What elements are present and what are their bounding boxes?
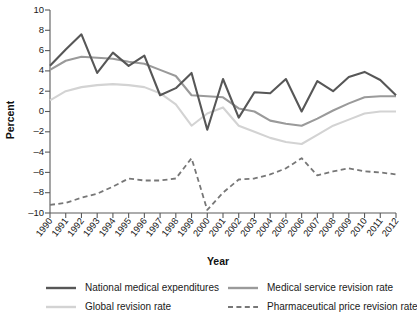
x-tick-label: 2003 (238, 216, 259, 238)
y-tick-label: –2 (33, 125, 44, 136)
y-axis-tick-labels: 1086420–2–4–6–8–10 (28, 4, 44, 218)
y-tick-label: –4 (33, 146, 44, 157)
x-tick-label: 2010 (349, 216, 370, 238)
series-line-pharmaceutical-price-revision-rate (50, 158, 396, 210)
y-tick-label: 0 (39, 105, 44, 116)
data-series-group (50, 34, 396, 210)
y-tick-label: 10 (33, 4, 44, 15)
y-tick-label: 8 (39, 24, 44, 35)
x-tick-label: 2002 (223, 216, 244, 238)
x-tick-label: 1997 (144, 216, 165, 238)
y-tick-label: 2 (39, 85, 44, 96)
x-tick-label: 2004 (254, 216, 275, 238)
y-axis-tick-marks (45, 10, 50, 213)
x-tick-label: 1994 (97, 216, 118, 238)
series-line-national-medical-expenditures (50, 34, 396, 129)
x-axis-title: Year (207, 255, 229, 267)
x-tick-label: 1991 (50, 216, 71, 238)
y-tick-label: 6 (39, 44, 44, 55)
medical-expenditure-line-chart: Percent 1086420–2–4–6–8–10 1990199119921… (0, 0, 417, 320)
chart-container: Percent 1086420–2–4–6–8–10 1990199119921… (0, 0, 417, 320)
series-line-global-revision-rate (50, 84, 396, 144)
legend-label-medical-service-revision-rate: Medical service revision rate (267, 282, 394, 293)
x-tick-label: 2001 (207, 216, 228, 238)
x-tick-label: 1990 (34, 216, 55, 238)
x-tick-label: 1996 (128, 216, 149, 238)
x-tick-label: 2007 (301, 216, 322, 238)
y-axis-title-group: Percent (4, 100, 16, 139)
legend-label-global-revision-rate: Global revision rate (85, 301, 172, 312)
y-tick-label: 4 (39, 64, 44, 75)
legend-label-pharmaceutical-price-revision-rate: Pharmaceutical price revision rate (267, 301, 417, 312)
legend-label-national-medical-expenditures: National medical expenditures (85, 282, 219, 293)
y-tick-label: –6 (33, 166, 44, 177)
x-tick-label: 1995 (113, 216, 134, 238)
x-tick-label: 1993 (81, 216, 102, 238)
x-tick-label: 2005 (270, 216, 291, 238)
x-axis-tick-labels: 1990199119921993199419951996199719981999… (34, 216, 401, 238)
x-tick-label: 1998 (160, 216, 181, 238)
x-tick-label: 1992 (65, 216, 86, 238)
x-tick-label: 2008 (317, 216, 338, 238)
x-tick-label: 1999 (176, 216, 197, 238)
x-tick-label: 2000 (191, 216, 212, 238)
x-tick-label: 2012 (380, 216, 401, 238)
y-tick-label: –8 (33, 186, 44, 197)
x-tick-label: 2006 (286, 216, 307, 238)
y-axis-title: Percent (4, 100, 16, 139)
x-tick-label: 2009 (333, 216, 354, 238)
y-tick-label: –10 (28, 207, 44, 218)
chart-legend: National medical expendituresMedical ser… (46, 282, 417, 312)
